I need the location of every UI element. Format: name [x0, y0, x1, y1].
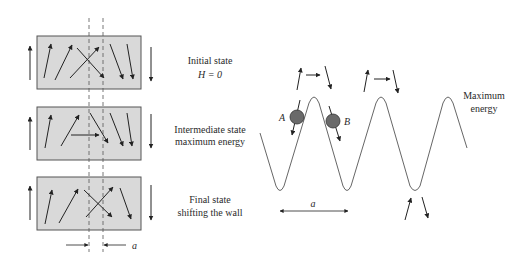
spin-arrows-peak2	[364, 70, 398, 93]
state-intermediate-title: Intermediate state	[174, 124, 246, 135]
state-initial-subtitle: H = 0	[197, 69, 222, 80]
point-b-label: B	[344, 116, 350, 127]
state-final-subtitle: shifting the wall	[178, 207, 243, 218]
energy-curve	[260, 97, 467, 191]
wall-states-panel: a Initial state H = 0 Intermediate state…	[30, 18, 246, 252]
energy-landscape-panel: A B Maximum energy a	[260, 66, 505, 220]
max-energy-label-line2: energy	[470, 103, 497, 114]
state-intermediate-subtitle: maximum energy	[175, 136, 245, 147]
state-final-title: Final state	[189, 194, 231, 205]
domain-wall-diagram: a Initial state H = 0 Intermediate state…	[0, 0, 532, 263]
spin-arrows-trough	[405, 197, 428, 220]
period-label: a	[311, 198, 316, 209]
point-a-label: A	[278, 112, 286, 123]
state-initial-title: Initial state	[188, 55, 233, 66]
max-energy-label-line1: Maximum	[463, 90, 505, 101]
domain-wall-ball-a	[290, 100, 304, 135]
wall-width-label: a	[132, 240, 137, 251]
spin-arrows-peak1	[297, 66, 331, 90]
